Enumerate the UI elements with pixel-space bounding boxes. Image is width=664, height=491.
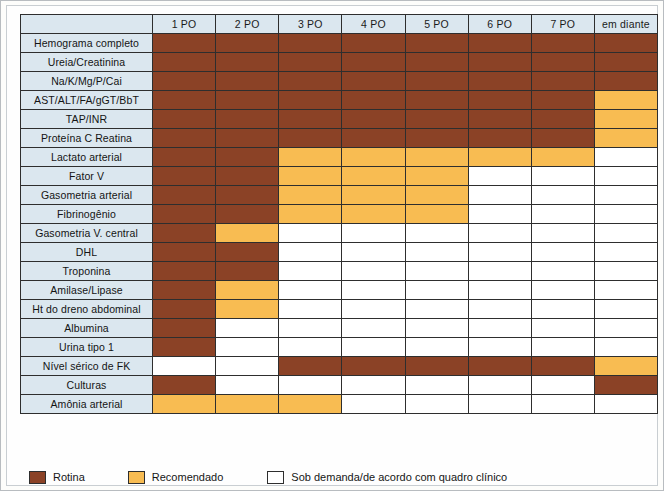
exam-schedule-table: 1 PO2 PO3 PO4 PO5 PO6 PO7 POem diante He… [20, 14, 658, 414]
schedule-cell-recommended [216, 300, 279, 319]
schedule-cell-recommended [216, 395, 279, 414]
schedule-cell-ondemand [468, 338, 531, 357]
row-label: Urina tipo 1 [21, 338, 153, 357]
table-row: TAP/INR [21, 110, 658, 129]
schedule-cell-ondemand [594, 319, 657, 338]
schedule-cell-routine [216, 91, 279, 110]
schedule-cell-ondemand [405, 338, 468, 357]
row-label: Ht do dreno abdominal [21, 300, 153, 319]
schedule-cell-ondemand [468, 186, 531, 205]
schedule-cell-ondemand [594, 262, 657, 281]
schedule-cell-ondemand [531, 395, 594, 414]
schedule-cell-routine [342, 91, 405, 110]
schedule-cell-ondemand [342, 224, 405, 243]
legend-label-ondemand: Sob demanda/de acordo com quadro clínico [291, 471, 507, 483]
row-label: Lactato arterial [21, 148, 153, 167]
column-header-6: 6 PO [468, 15, 531, 34]
schedule-cell-ondemand [405, 243, 468, 262]
row-label: AST/ALT/FA/gGT/BbT [21, 91, 153, 110]
table-row: Gasometria V. central [21, 224, 658, 243]
schedule-cell-routine [594, 376, 657, 395]
table-row: Fator V [21, 167, 658, 186]
schedule-cell-ondemand [594, 205, 657, 224]
table-row: Albumina [21, 319, 658, 338]
schedule-cell-ondemand [594, 148, 657, 167]
schedule-cell-ondemand [405, 395, 468, 414]
table-row: Culturas [21, 376, 658, 395]
schedule-cell-routine [153, 338, 216, 357]
legend-label-recommended: Recomendado [152, 471, 224, 483]
schedule-cell-routine [216, 129, 279, 148]
row-label: Gasometria arterial [21, 186, 153, 205]
table-row: Troponina [21, 262, 658, 281]
schedule-cell-ondemand [594, 395, 657, 414]
schedule-cell-ondemand [468, 376, 531, 395]
schedule-cell-recommended [153, 395, 216, 414]
schedule-cell-ondemand [405, 281, 468, 300]
schedule-cell-ondemand [594, 167, 657, 186]
schedule-cell-routine [342, 53, 405, 72]
schedule-cell-routine [468, 34, 531, 53]
schedule-cell-routine [279, 91, 342, 110]
schedule-cell-ondemand [342, 395, 405, 414]
column-header-2: 2 PO [216, 15, 279, 34]
document-frame: 1 PO2 PO3 PO4 PO5 PO6 PO7 POem diante He… [6, 5, 658, 486]
schedule-cell-ondemand [531, 338, 594, 357]
schedule-cell-ondemand [279, 338, 342, 357]
schedule-cell-ondemand [405, 300, 468, 319]
schedule-cell-routine [216, 148, 279, 167]
row-label: Albumina [21, 319, 153, 338]
schedule-cell-ondemand [468, 243, 531, 262]
schedule-cell-recommended [342, 205, 405, 224]
table-body: Hemograma completoUreia/CreatininaNa/K/M… [21, 34, 658, 414]
schedule-cell-ondemand [594, 224, 657, 243]
schedule-cell-ondemand [468, 319, 531, 338]
schedule-cell-routine [468, 53, 531, 72]
schedule-cell-routine [216, 262, 279, 281]
schedule-cell-routine [594, 72, 657, 91]
schedule-cell-routine [531, 53, 594, 72]
schedule-cell-recommended [216, 224, 279, 243]
schedule-cell-routine [594, 53, 657, 72]
schedule-cell-routine [342, 357, 405, 376]
row-label: Hemograma completo [21, 34, 153, 53]
schedule-cell-routine [279, 110, 342, 129]
schedule-cell-ondemand [216, 357, 279, 376]
schedule-cell-ondemand [468, 300, 531, 319]
schedule-cell-ondemand [405, 319, 468, 338]
row-label: Ureia/Creatinina [21, 53, 153, 72]
schedule-cell-routine [468, 72, 531, 91]
schedule-cell-ondemand [531, 167, 594, 186]
schedule-cell-ondemand [468, 205, 531, 224]
schedule-cell-routine [468, 110, 531, 129]
schedule-cell-routine [153, 91, 216, 110]
table-row: Amilase/Lipase [21, 281, 658, 300]
schedule-cell-ondemand [468, 281, 531, 300]
column-header-1: 1 PO [153, 15, 216, 34]
column-header-5: 5 PO [405, 15, 468, 34]
schedule-cell-ondemand [405, 262, 468, 281]
schedule-cell-routine [153, 243, 216, 262]
legend-item-recommended: Recomendado [128, 471, 224, 484]
row-label: Amônia arterial [21, 395, 153, 414]
schedule-cell-routine [153, 376, 216, 395]
schedule-cell-recommended [405, 186, 468, 205]
schedule-cell-routine [531, 129, 594, 148]
schedule-cell-ondemand [531, 262, 594, 281]
schedule-cell-recommended [594, 357, 657, 376]
schedule-cell-routine [405, 129, 468, 148]
schedule-cell-ondemand [279, 262, 342, 281]
schedule-cell-ondemand [342, 300, 405, 319]
schedule-cell-routine [153, 319, 216, 338]
schedule-cell-routine [594, 34, 657, 53]
schedule-cell-routine [531, 72, 594, 91]
schedule-cell-routine [153, 281, 216, 300]
schedule-cell-ondemand [279, 319, 342, 338]
schedule-cell-ondemand [531, 205, 594, 224]
schedule-cell-recommended [216, 281, 279, 300]
schedule-cell-routine [342, 72, 405, 91]
schedule-cell-recommended [468, 148, 531, 167]
row-label: Proteína C Reatina [21, 129, 153, 148]
schedule-cell-recommended [279, 205, 342, 224]
schedule-cell-ondemand [531, 186, 594, 205]
